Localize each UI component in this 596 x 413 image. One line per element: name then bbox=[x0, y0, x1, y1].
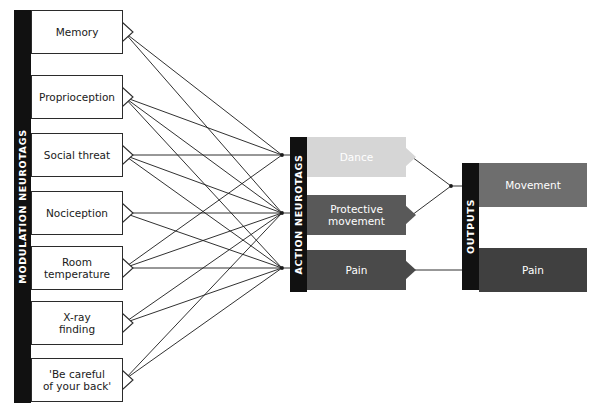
node-movement-output-label: Movement bbox=[501, 179, 565, 191]
node-protective-movement[interactable]: Protective movement bbox=[307, 195, 406, 235]
node-social-threat[interactable]: Social threat bbox=[31, 133, 123, 177]
node-pain-output[interactable]: Pain bbox=[479, 248, 587, 292]
node-pain-action[interactable]: Pain bbox=[307, 250, 406, 290]
node-nociception[interactable]: Nociception bbox=[31, 191, 123, 235]
column-label-modulation: MODULATION NEUROTAGS bbox=[17, 129, 28, 283]
node-pain-action-label: Pain bbox=[342, 264, 372, 276]
node-be-careful-label: 'Be careful of your back' bbox=[39, 368, 115, 393]
column-bar-modulation: MODULATION NEUROTAGS bbox=[14, 10, 31, 403]
node-dance-label: Dance bbox=[336, 151, 377, 163]
node-memory[interactable]: Memory bbox=[31, 10, 123, 54]
node-nociception-label: Nociception bbox=[42, 207, 112, 219]
neurotags-diagram: MODULATION NEUROTAGS Memory Propriocepti… bbox=[0, 0, 596, 413]
node-be-careful[interactable]: 'Be careful of your back' bbox=[31, 358, 123, 402]
node-xray-finding[interactable]: X-ray finding bbox=[31, 301, 123, 345]
node-dance[interactable]: Dance bbox=[307, 137, 406, 177]
node-memory-label: Memory bbox=[52, 26, 103, 38]
node-xray-finding-label: X-ray finding bbox=[55, 311, 99, 336]
column-label-outputs: OUTPUTS bbox=[465, 199, 476, 254]
node-room-temperature[interactable]: Room temperature bbox=[31, 246, 123, 290]
node-proprioception-label: Proprioception bbox=[35, 91, 119, 103]
node-proprioception[interactable]: Proprioception bbox=[31, 75, 123, 119]
node-room-temperature-label: Room temperature bbox=[40, 256, 114, 281]
column-label-action: ACTION NEUROTAGS bbox=[293, 154, 304, 274]
node-social-threat-label: Social threat bbox=[40, 149, 114, 161]
node-protective-movement-label: Protective movement bbox=[324, 203, 389, 228]
column-bar-outputs: OUTPUTS bbox=[462, 163, 479, 290]
node-movement-output[interactable]: Movement bbox=[479, 163, 587, 207]
node-pain-output-label: Pain bbox=[518, 264, 548, 276]
column-bar-action: ACTION NEUROTAGS bbox=[290, 137, 307, 292]
